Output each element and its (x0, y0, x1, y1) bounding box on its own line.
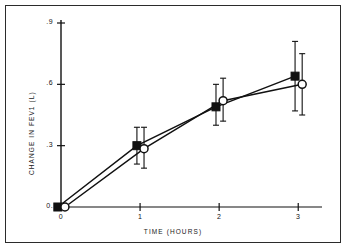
marker-open-circle-series-p3 (298, 80, 306, 88)
y-tick-label-1: .3 (31, 141, 53, 148)
chart-plot-area (0, 0, 346, 248)
marker-open-circle-series-p2 (219, 97, 227, 105)
data-lines (58, 76, 302, 207)
y-tick-label-2: .6 (31, 79, 53, 86)
marker-open-circle-series-p0 (61, 203, 69, 211)
y-tick-label-0: 0. (31, 202, 53, 209)
x-tick-label-3: 3 (288, 213, 308, 220)
figure-container: TIME (HOURS) CHANGE IN FEV1 (L) 01230..3… (0, 0, 346, 248)
x-tick-label-1: 1 (130, 213, 150, 220)
x-tick-label-0: 0 (51, 213, 71, 220)
x-axis-title: TIME (HOURS) (0, 228, 346, 235)
axis-lines (61, 20, 322, 207)
marker-filled-square-series-p2 (212, 103, 220, 111)
data-markers (54, 72, 306, 211)
y-axis-title: CHANGE IN FEV1 (L) (28, 91, 35, 175)
data-line-open-circle-series (65, 84, 302, 207)
marker-filled-square-series-p3 (291, 72, 299, 80)
y-tick-label-3: .9 (31, 18, 53, 25)
data-line-filled-square-series (58, 76, 295, 207)
x-tick-label-2: 2 (209, 213, 229, 220)
marker-open-circle-series-p1 (140, 145, 148, 153)
